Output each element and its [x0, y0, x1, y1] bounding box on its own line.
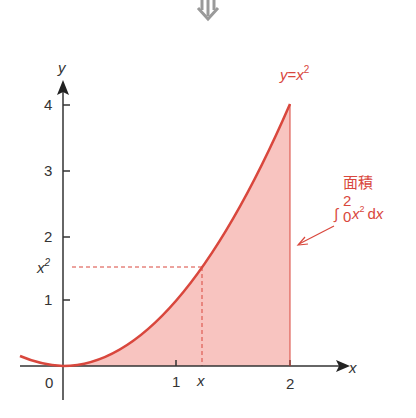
tick-x-0: 0	[45, 374, 53, 391]
integrand: x2dx	[351, 204, 384, 222]
curve-label: y=x2	[279, 64, 310, 83]
tick-y-4: 4	[44, 96, 52, 113]
x-axis-label: x	[348, 359, 357, 376]
shaded-area	[63, 104, 290, 366]
tick-y-1: 1	[44, 291, 52, 308]
tick-x-1: 1	[172, 373, 180, 390]
integral-diagram: 0 1 2 x x 1 2 3 4 y x2 y=x2 面積 ∫ 2 0 x2d…	[0, 0, 416, 418]
integral-sign: ∫	[333, 205, 340, 223]
down-arrow-icon	[198, 0, 218, 19]
marker-x-label: x	[196, 372, 205, 389]
pointer-arrow-icon	[298, 226, 334, 245]
tick-y-2: 2	[44, 228, 52, 245]
integral-upper: 2	[343, 192, 351, 209]
area-title: 面積	[343, 174, 373, 191]
tick-y-3: 3	[44, 162, 52, 179]
tick-x-2: 2	[286, 375, 294, 392]
marker-y-label: x2	[36, 257, 51, 276]
y-axis-label: y	[57, 59, 67, 76]
integral-lower: 0	[343, 208, 351, 225]
